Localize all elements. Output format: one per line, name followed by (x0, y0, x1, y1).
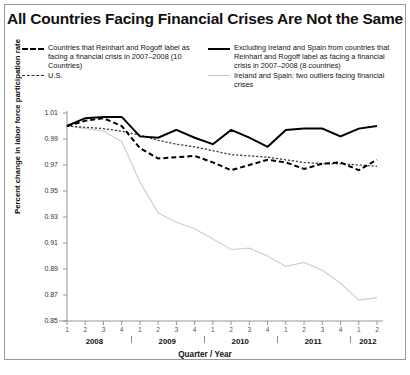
y-axis-tick-label: 0.91 (34, 239, 58, 246)
x-axis-year-label: 2009 (147, 337, 187, 346)
y-axis-tick-label: 0.93 (34, 213, 58, 220)
chart-canvas (0, 0, 410, 375)
series-line-solid (67, 117, 377, 147)
x-axis-quarter-label: 2 (298, 326, 310, 333)
x-axis-quarter-label: 3 (97, 326, 109, 333)
x-axis-quarter-label: 1 (353, 326, 365, 333)
x-axis-quarter-label: 3 (170, 326, 182, 333)
chart-figure: All Countries Facing Financial Crises Ar… (0, 0, 410, 375)
y-axis-label: Percent change in labor force participat… (13, 22, 22, 232)
x-axis-year-label: 2008 (74, 337, 114, 346)
x-axis-quarter-label: 4 (262, 326, 274, 333)
y-axis-tick-label: 0.97 (34, 161, 58, 168)
x-axis-quarter-label: 1 (280, 326, 292, 333)
x-axis-quarter-label: 4 (189, 326, 201, 333)
plot-area: Percent change in labor force participat… (0, 0, 410, 375)
x-axis-year-label: 2011 (293, 337, 333, 346)
x-axis-year-separator (131, 336, 132, 343)
x-axis-quarter-label: 3 (243, 326, 255, 333)
x-axis-label: Quarter / Year (0, 350, 410, 359)
x-axis-year-separator (350, 336, 351, 343)
y-axis-tick-label: 1.01 (34, 109, 58, 116)
x-axis-year-separator (204, 336, 205, 343)
x-axis-quarter-label: 1 (61, 326, 73, 333)
series-line-dashed-thick (67, 118, 377, 170)
x-axis-year-label: 2012 (348, 337, 388, 346)
x-axis-quarter-label: 3 (316, 326, 328, 333)
x-axis-year-label: 2010 (220, 337, 260, 346)
x-axis-quarter-label: 4 (335, 326, 347, 333)
y-axis-tick-label: 0.87 (34, 291, 58, 298)
y-axis-tick-label: 0.95 (34, 187, 58, 194)
x-axis-quarter-label: 2 (225, 326, 237, 333)
x-axis-quarter-label: 1 (207, 326, 219, 333)
y-axis-tick-label: 0.89 (34, 265, 58, 272)
x-axis-quarter-label: 4 (116, 326, 128, 333)
y-axis-tick-label: 0.99 (34, 135, 58, 142)
y-axis-tick-label: 0.85 (34, 317, 58, 324)
x-axis-quarter-label: 2 (79, 326, 91, 333)
x-axis-quarter-label: 2 (371, 326, 383, 333)
x-axis-quarter-label: 1 (134, 326, 146, 333)
x-axis-year-separator (277, 336, 278, 343)
x-axis-quarter-label: 2 (152, 326, 164, 333)
